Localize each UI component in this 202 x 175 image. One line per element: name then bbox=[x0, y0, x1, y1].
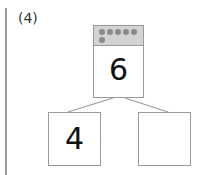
dot-icon bbox=[99, 37, 105, 43]
whole-number: 6 bbox=[94, 52, 143, 87]
part-box-right-answer[interactable] bbox=[138, 112, 191, 166]
whole-number-box: 6 bbox=[93, 25, 144, 98]
dot-counter bbox=[94, 26, 143, 46]
dot-icon bbox=[123, 29, 129, 35]
dot-icon bbox=[131, 29, 137, 35]
dot-icon bbox=[115, 29, 121, 35]
part-number-left: 4 bbox=[49, 121, 100, 156]
part-box-left: 4 bbox=[48, 112, 101, 166]
dot-icon bbox=[107, 29, 113, 35]
dot-icon bbox=[99, 29, 105, 35]
